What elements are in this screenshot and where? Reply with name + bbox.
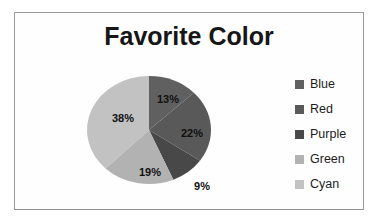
pie-label-purple: 9% [194,180,210,192]
legend-swatch-cyan [295,180,304,189]
legend-swatch-blue [295,80,304,89]
legend-label: Cyan [310,178,339,191]
chart-frame: Favorite Color 13% 22% 9% 19% 38% Blue R… [14,12,364,210]
legend-swatch-purple [295,130,304,139]
pie-label-red: 22% [181,127,203,139]
legend-item-red: Red [295,97,346,122]
legend-label: Red [310,103,333,116]
legend-item-blue: Blue [295,72,346,97]
legend-item-cyan: Cyan [295,172,346,197]
chart-legend: Blue Red Purple Green Cyan [295,72,346,197]
legend-label: Green [310,153,345,166]
pie-label-blue: 13% [157,93,179,105]
legend-swatch-red [295,105,304,114]
legend-swatch-green [295,155,304,164]
legend-label: Blue [310,78,335,91]
legend-item-green: Green [295,147,346,172]
legend-label: Purple [310,128,346,141]
legend-item-purple: Purple [295,122,346,147]
pie-label-green: 19% [139,166,161,178]
pie-label-cyan: 38% [112,112,134,124]
